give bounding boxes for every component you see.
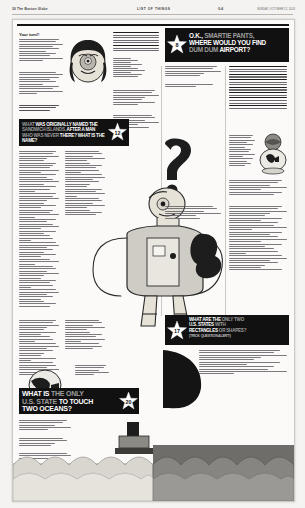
headline-2-l1b: WAS ORIGINALLY NAMED THE [35,122,97,127]
left-body-col-1 [19,151,59,308]
headline-4-l1a: WHAT ARE THE [189,317,221,322]
article-sheet: Your turn!! [12,19,295,502]
headline-4-l4a: (TRICK [189,334,200,338]
headline-3-l3: TWO OCEANS? [22,405,72,412]
dateline: SUNDAY, OCTOBER 12, 2014 [257,7,295,11]
left-lower-col-2 [65,320,105,350]
page-number: G 4 [218,7,223,11]
right-col-para-2 [165,84,221,89]
far-right-questions [229,66,287,110]
right-col-para-1 [165,66,221,78]
headline-3-l1b: THE ONLY [51,390,84,397]
headline-2-l3b: THERE? [60,133,77,138]
mid-col-para-2 [113,90,159,106]
headline-rectangles: 17 WHAT ARE THE ONLY TWO U.S. STATES WIT… [165,315,289,345]
question-list-items [113,58,159,78]
lead-in-label: Your turn!! [19,32,39,37]
face-portrait-illustration [65,36,111,86]
headline-1-l3b: AIRPORT? [219,46,250,53]
headline-2-l2b: AFTER A MAN [67,127,96,132]
headline-2-l1a: WHAT [22,122,34,127]
headline-4-l2a: U.S. STATES [189,322,214,327]
headline-4-l2b: WITH [215,322,226,327]
ocean-waves-illustration [13,445,294,501]
headline-4-l4b: QUESTION ALERT!) [201,334,231,338]
dark-swoosh-shape [163,350,213,410]
left-col-para-3 [19,105,63,112]
star-number: 8 [167,35,187,54]
newspaper-page: 30 The Boston Globe LIST OF THINGS G 4 S… [0,0,305,508]
headline-3-l1a: WHAT IS [22,390,49,397]
lower-left-caption [75,365,109,377]
left-col-para-2 [19,72,63,95]
star-badge-17: 17 [167,321,187,340]
publication-name: 30 The Boston Globe [12,7,48,11]
headline-4-l1b: ONLY TWO [222,317,244,322]
section-title: LIST OF THINGS [137,7,171,11]
headline-4-l3a: RECTANGLES [189,328,218,333]
right-col-mid-text [229,206,287,272]
headline-4-l3b: OR SHAPES? [219,328,246,333]
headline-1-l2: WHERE WOULD YOU FIND [189,39,266,46]
lead-in-text [19,39,63,62]
headline-1-l3a: DUM DUM [189,46,218,53]
headline-3-l2b: TO TOUCH [59,398,93,405]
headline-3-l2a: U.S. STATE [22,398,57,405]
center-right-col-text [165,206,221,220]
question-list-top [113,32,159,53]
masthead-rule [12,14,293,15]
star-badge-8: 8 [167,35,187,54]
headline-smartie-pants: 8 O.K., SMARTIE PANTS, WHERE WOULD YOU F… [165,28,289,62]
bottom-left-text-1 [19,420,71,432]
far-right-para-b [229,180,287,196]
headline-2-l2a: SANDWICH ISLANDS, [22,127,66,132]
question-mark-head [165,139,191,196]
main-figure-illustration [87,138,227,328]
headline-2-l3a: WHO WAS NEVER [22,133,59,138]
far-right-para-a [229,135,255,168]
globe-illustration [257,130,289,176]
star-badge-20: 20 [119,392,138,410]
headline-1-l1b: SMARTIE PANTS, [204,32,254,39]
headline-1-l1a: O.K., [189,32,203,39]
star-number: 20 [119,392,138,410]
star-number: 17 [167,321,187,340]
headline-two-oceans: 20 WHAT IS THE ONLY U.S. STATE TO TOUCH … [19,388,139,414]
top-rule [17,24,289,26]
